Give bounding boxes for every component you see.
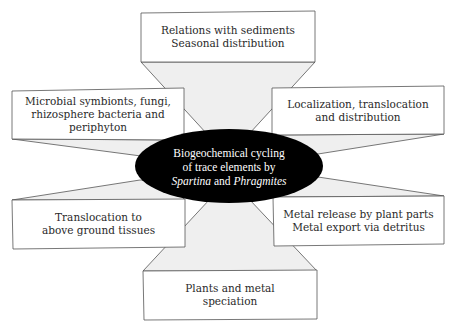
center-conjunction: and bbox=[211, 175, 233, 187]
node-label-top: Relations with sediments Seasonal distri… bbox=[141, 12, 315, 62]
node-label-upper-right: Localization, translocation and distribu… bbox=[272, 86, 444, 135]
node-label-lower-left: Translocation to above ground tissues bbox=[12, 199, 185, 249]
center-line-1: Biogeochemical cycling bbox=[173, 146, 284, 160]
node-label-lower-right: Metal release by plant parts Metal expor… bbox=[273, 196, 444, 246]
node-label-bottom: Plants and metal speciation bbox=[143, 270, 317, 320]
genus-spartina: Spartina bbox=[171, 175, 211, 187]
genus-phragmites: Phragmites bbox=[233, 175, 286, 187]
center-line-3: Spartina and Phragmites bbox=[171, 174, 286, 188]
center-line-2: of trace elements by bbox=[183, 160, 276, 174]
center-label: Biogeochemical cycling of trace elements… bbox=[135, 131, 323, 203]
